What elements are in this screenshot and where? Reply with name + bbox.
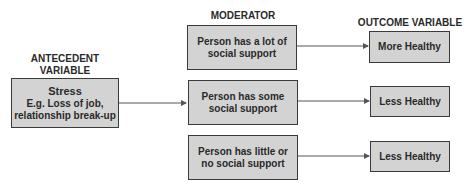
arrow-connectors bbox=[0, 0, 473, 193]
